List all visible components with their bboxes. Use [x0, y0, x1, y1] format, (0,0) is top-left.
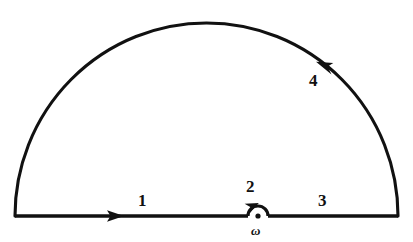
pole-marker-dot [255, 213, 260, 218]
segment-4-label: 4 [309, 72, 318, 89]
segment-3-label: 3 [318, 192, 327, 209]
segment-1-label: 1 [138, 192, 147, 209]
contour-diagram-figure: 1 2 3 4 ω [0, 0, 413, 242]
segment-2-arrowhead [245, 203, 259, 213]
contour-path-graphic [0, 0, 413, 242]
segment-2-label: 2 [246, 178, 255, 195]
pole-omega-label: ω [251, 224, 260, 237]
large-arc-path [15, 23, 398, 216]
